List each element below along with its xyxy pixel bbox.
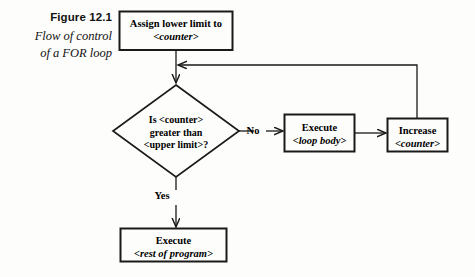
node-execute-loop-body (285, 115, 355, 152)
node-execute-rest-of-program (121, 229, 227, 262)
edge-label-yes: Yes (149, 190, 175, 201)
figure-caption: Flow of control of a FOR loop (2, 28, 112, 62)
node-decision-counter-greater (113, 85, 239, 177)
node-increase-counter (388, 119, 448, 152)
edge-label-no: No (240, 125, 266, 136)
figure-caption-line-1: Flow of control (2, 28, 112, 45)
figure-canvas: Figure 12.1 Flow of control of a FOR loo… (0, 0, 475, 277)
figure-caption-line-2: of a FOR loop (2, 45, 112, 62)
edge-increase-feedback-loop (178, 65, 417, 118)
node-assign-lower-limit (120, 12, 233, 51)
figure-number-label: Figure 12.1 (8, 10, 112, 24)
